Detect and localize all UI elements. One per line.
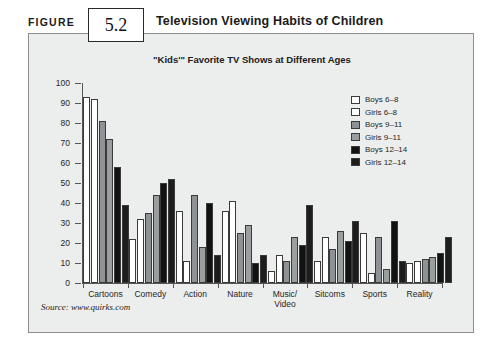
bar [437,253,444,283]
legend-swatch-icon [351,96,360,104]
bar [191,195,198,283]
bar [222,211,229,283]
bar-group [83,83,129,283]
bar [375,237,382,283]
legend-label: Boys 9–11 [365,120,402,129]
bar [445,237,452,283]
bar [229,201,236,283]
y-axis-tick-label: 90 [61,98,70,108]
y-axis-tick [75,83,81,84]
y-axis-tick [75,163,81,164]
bar [106,139,113,283]
bar [129,239,136,283]
chart-title: "Kids'" Favorite TV Shows at Different A… [29,54,475,65]
legend-swatch-icon [351,133,360,141]
y-axis-tick [75,283,81,284]
bar [360,233,367,283]
bar [252,263,259,283]
bar [391,221,398,283]
bar [199,247,206,283]
legend-label: Girls 6–8 [365,108,397,117]
x-axis-tick [218,283,219,288]
y-axis-tick-label: 50 [61,178,70,188]
bar [145,213,152,283]
y-axis-tick [75,123,81,124]
bar [314,261,321,283]
bar [206,203,213,283]
bar [299,245,306,283]
bar [329,249,336,283]
bar [345,241,352,283]
legend-swatch-icon [351,121,360,129]
figure-number-box: 5.2 [88,8,144,42]
bar [260,255,267,283]
bar [352,221,359,283]
legend-label: Boys 12–14 [365,145,407,154]
legend-label: Girls 12–14 [365,158,406,167]
legend-swatch-icon [351,146,360,154]
x-axis-tick [263,283,264,288]
y-axis-tick-label: 80 [61,118,70,128]
figure-title: Television Viewing Habits of Children [156,14,383,28]
legend-label: Boys 6–8 [365,95,398,104]
y-axis-tick-label: 0 [65,278,70,288]
bar [183,261,190,283]
bar [306,205,313,283]
y-axis-tick-label: 20 [61,238,70,248]
bar [268,271,275,283]
y-axis-tick [75,103,81,104]
legend-label: Girls 9–11 [365,133,401,142]
bar [168,179,175,283]
y-axis-tick [75,143,81,144]
bar [399,261,406,283]
y-axis-tick [75,203,81,204]
source-note: Source: www.quirks.com [41,302,130,312]
bar [276,255,283,283]
figure-number: 5.2 [105,16,128,34]
legend-swatch-icon [351,108,360,116]
legend-item: Girls 6–8 [351,107,407,118]
legend-item: Girls 12–14 [351,157,407,168]
bar [322,237,329,283]
y-axis-tick-label: 10 [61,258,70,268]
bar [414,261,421,283]
y-axis-tick [75,183,81,184]
y-axis-tick [75,243,81,244]
figure-page: FIGURE 5.2 Television Viewing Habits of … [0,0,502,347]
bar [176,211,183,283]
y-axis-tick [75,263,81,264]
bar-group [406,83,452,283]
x-axis-tick [397,283,398,288]
x-axis-label: Reality [385,289,455,299]
bar [83,97,90,283]
legend-item: Boys 6–8 [351,94,407,105]
bar [214,255,221,283]
y-axis-tick-label: 70 [61,138,70,148]
bar [337,231,344,283]
bar [406,263,413,283]
legend-swatch-icon [351,158,360,166]
bar [245,225,252,283]
legend-item: Boys 12–14 [351,144,407,155]
bar [114,167,121,283]
x-axis-tick [128,283,129,288]
bar-group [129,83,175,283]
y-axis-tick [75,223,81,224]
bar [291,237,298,283]
x-axis-tick [83,283,84,288]
bar [153,195,160,283]
bar [383,269,390,283]
bar [91,99,98,283]
bar [237,233,244,283]
bar [122,205,129,283]
legend-item: Girls 9–11 [351,132,407,143]
x-axis-tick [442,283,443,288]
chart-legend: Boys 6–8Girls 6–8Boys 9–11Girls 9–11Boys… [351,94,407,169]
chart-panel: "Kids'" Favorite TV Shows at Different A… [28,33,474,333]
bar [368,273,375,283]
bar-group [221,83,267,283]
bar [422,259,429,283]
figure-label: FIGURE [28,16,75,28]
y-axis-tick-label: 40 [61,198,70,208]
bar [429,257,436,283]
